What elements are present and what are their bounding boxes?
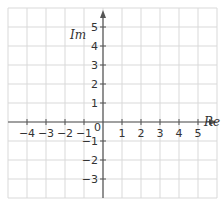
imaginary-axis-label: Im <box>69 28 86 42</box>
origin-label: 0 <box>94 121 101 134</box>
y-tick-label: −2 <box>82 154 98 167</box>
y-tick-label: 1 <box>91 97 98 110</box>
axes <box>8 10 217 198</box>
y-tick-label: 2 <box>91 78 98 91</box>
x-tick-label: 4 <box>176 127 183 140</box>
grid-lines <box>8 8 217 198</box>
y-tick-label: −1 <box>82 135 98 148</box>
x-tick-label: −4 <box>19 127 35 140</box>
y-tick-label: 3 <box>91 59 98 72</box>
complex-plane-diagram: −4−3−2−11234554321−1−2−3 Re Im 0 <box>0 0 223 205</box>
y-tick-label: 4 <box>91 40 98 53</box>
y-tick-label: −3 <box>82 173 98 186</box>
x-tick-label: −2 <box>57 127 73 140</box>
x-tick-label: 1 <box>119 127 126 140</box>
real-axis-label: Re <box>203 115 220 129</box>
imaginary-axis-arrow-icon <box>100 10 106 18</box>
y-tick-label: 5 <box>91 21 98 34</box>
x-tick-label: 3 <box>157 127 164 140</box>
x-tick-label: −3 <box>38 127 54 140</box>
x-tick-label: 2 <box>138 127 145 140</box>
x-tick-label: 5 <box>195 127 202 140</box>
